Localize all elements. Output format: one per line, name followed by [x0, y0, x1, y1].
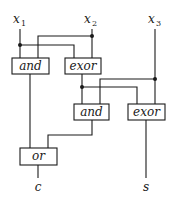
wire-x1-exor1 — [20, 45, 74, 58]
svg-text:2: 2 — [92, 19, 97, 28]
svg-text:exor: exor — [133, 105, 161, 119]
svg-text:x: x — [148, 12, 155, 26]
input-x1-label: x 1 — [13, 12, 26, 28]
wire-exor1-exor2 — [82, 87, 137, 104]
gate-exor1: exor — [65, 58, 101, 74]
svg-text:3: 3 — [156, 19, 161, 28]
gate-or: or — [20, 148, 57, 165]
svg-text:exor: exor — [70, 59, 98, 73]
svg-text:or: or — [32, 149, 46, 163]
gate-exor2: exor — [128, 104, 165, 120]
output-s-label: s — [143, 180, 149, 194]
svg-text:x: x — [84, 12, 91, 26]
svg-text:x: x — [13, 12, 20, 26]
wire-x3-and2 — [100, 79, 155, 104]
wire-x2-and1 — [38, 36, 92, 58]
full-adder-circuit: x 1 x 2 x 3 — [0, 0, 177, 204]
gate-and1: and — [12, 58, 49, 74]
junction-dot-exor1 — [80, 85, 84, 89]
wire-and2-or — [48, 120, 92, 148]
svg-text:and: and — [80, 105, 103, 119]
junction-dot-x1 — [18, 43, 22, 47]
junction-dot-x3 — [153, 77, 157, 81]
gate-and2: and — [74, 104, 109, 120]
output-c-label: c — [35, 180, 42, 194]
input-x2-label: x 2 — [84, 12, 97, 28]
junction-dot-x2 — [90, 34, 94, 38]
svg-text:and: and — [19, 59, 42, 73]
input-x3-label: x 3 — [148, 12, 161, 28]
svg-text:1: 1 — [21, 19, 26, 28]
